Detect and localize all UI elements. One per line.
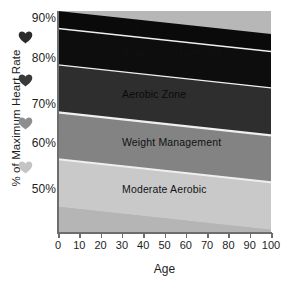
- x-tick-mark-20: [101, 233, 103, 238]
- x-tick-mark-0: [58, 233, 60, 238]
- heart-icon-intensity-2: [18, 161, 33, 174]
- x-tick-mark-10: [79, 233, 81, 238]
- heart-icon-intensity-4: [18, 74, 33, 87]
- x-tick-mark-90: [250, 233, 252, 238]
- heart-icon-intensity-3: [18, 117, 33, 130]
- y-tick-label-50: 50%: [16, 182, 56, 196]
- x-axis-title: Age: [58, 262, 271, 276]
- heart-rate-zone-chart: % of Maximum Heart Rate 90% 80% 70% 60% …: [0, 0, 296, 284]
- x-tick-mark-60: [186, 233, 188, 238]
- heart-icon-intensity-5: [18, 31, 33, 44]
- x-tick-mark-50: [165, 233, 167, 238]
- x-tick-mark-100: [271, 233, 273, 238]
- y-axis-line: [57, 11, 59, 233]
- x-tick-mark-40: [143, 233, 145, 238]
- zone-bands-svg: [58, 11, 271, 232]
- y-tick-label-60: 60%: [16, 136, 56, 150]
- x-tick-mark-30: [122, 233, 124, 238]
- plot-area: Red Line Anaerobic Threshold Aerobic Zon…: [58, 11, 271, 232]
- x-tick-label-100: 100: [256, 239, 286, 251]
- x-tick-mark-70: [207, 233, 209, 238]
- y-tick-label-80: 80%: [16, 51, 56, 65]
- y-tick-label-90: 90%: [16, 11, 56, 25]
- x-tick-mark-80: [228, 233, 230, 238]
- y-tick-label-70: 70%: [16, 97, 56, 111]
